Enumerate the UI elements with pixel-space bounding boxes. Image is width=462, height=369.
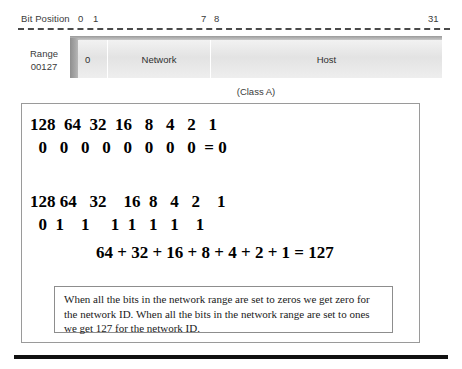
bit-segment: 0 — [78, 40, 108, 78]
bit-position-ruler: Bit Position 0 1 7 8 31 — [0, 0, 462, 32]
bit-tick-1: 1 — [93, 13, 98, 24]
range-label-line1: Range — [18, 47, 70, 60]
class-a-caption-text: (Class A) — [237, 86, 276, 97]
bottom-divider — [14, 355, 448, 359]
block-b-bits: 0 1 1 1 1 1 1 1 — [30, 215, 204, 235]
ruler-dashed-line — [18, 28, 450, 30]
bit-tick-31: 31 — [428, 13, 439, 24]
block-b-weights: 128 64 32 16 8 4 2 1 — [30, 192, 226, 212]
block-a-bits: 0 0 0 0 0 0 0 0 = 0 — [30, 138, 227, 158]
bit-tick-0: 0 — [78, 13, 83, 24]
class-a-address-bar: 0 Network Host — [70, 36, 450, 82]
network-segment: Network — [108, 40, 211, 78]
host-segment: Host — [211, 40, 442, 78]
bit-position-label: Bit Position — [21, 13, 70, 24]
explanatory-note: When all the bits in the network range a… — [54, 286, 393, 333]
range-label: Range 00127 — [18, 47, 70, 73]
range-label-line2: 00127 — [18, 60, 70, 73]
bit-tick-7: 7 — [201, 13, 206, 24]
block-a-weights: 128 64 32 16 8 4 2 1 — [30, 115, 217, 135]
block-b-sum: 64 + 32 + 16 + 8 + 4 + 2 + 1 = 127 — [96, 243, 334, 263]
class-a-caption: (Class A) — [0, 86, 462, 97]
bit-tick-8: 8 — [214, 13, 219, 24]
